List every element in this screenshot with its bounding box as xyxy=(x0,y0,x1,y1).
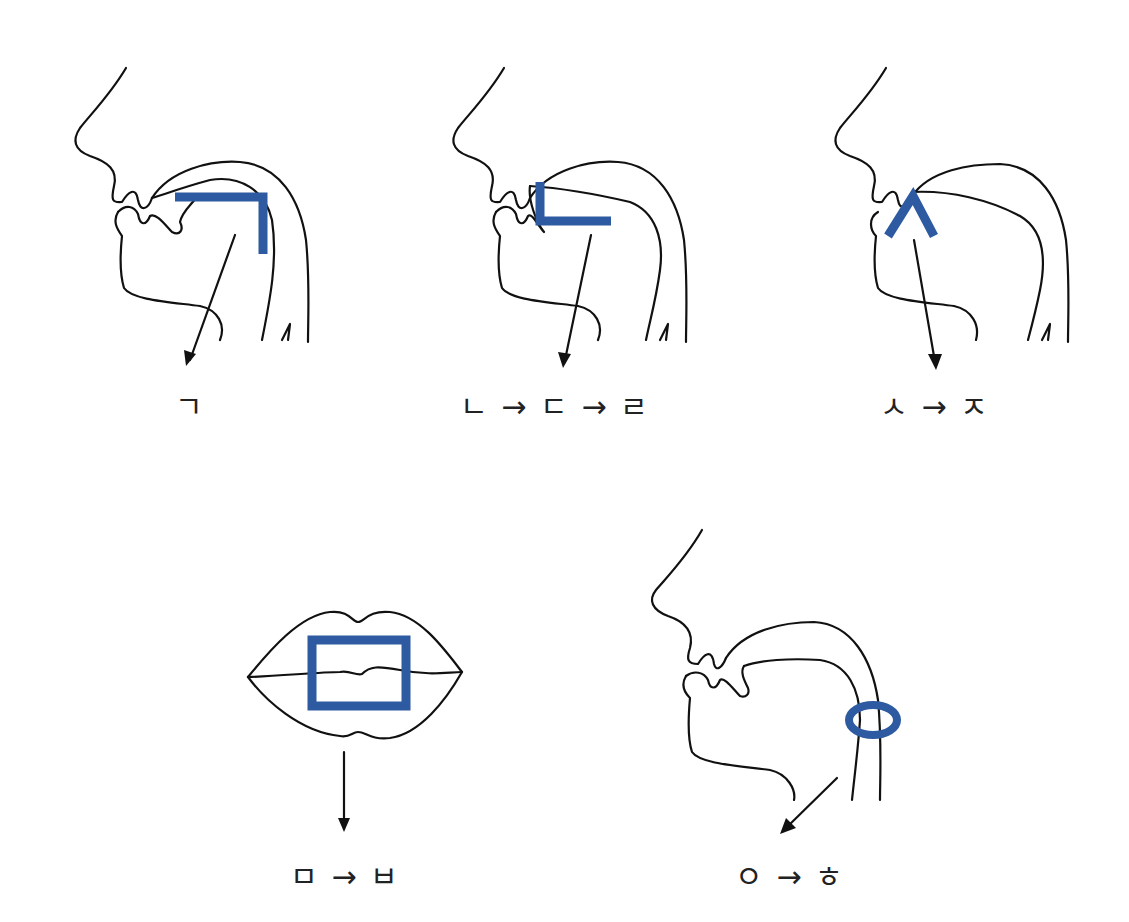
panel-glottal: ㅇ → ㅎ xyxy=(0,0,1129,922)
head-profile-glottal xyxy=(0,0,1129,922)
marker-circle-icon xyxy=(849,705,897,735)
label-glottal: ㅇ → ㅎ xyxy=(735,852,845,896)
arrow-glottal xyxy=(786,778,837,828)
